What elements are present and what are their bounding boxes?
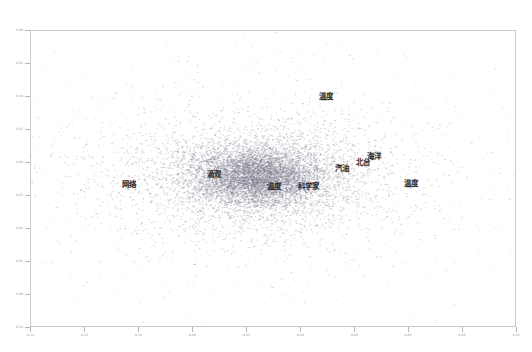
x-axis-tick-label: -0.08 <box>188 333 196 337</box>
x-axis-tick <box>192 327 193 332</box>
word-label: 汽油 <box>335 165 349 173</box>
x-axis-tick-label: -0.02 <box>350 333 358 337</box>
y-axis-tick-label: 0.02 <box>16 127 23 131</box>
x-axis-tick <box>246 327 247 332</box>
scatter-point-cloud <box>31 31 515 326</box>
y-axis-tick <box>25 162 30 163</box>
x-axis-tick-label: -0.04 <box>296 333 304 337</box>
y-axis-tick <box>25 129 30 130</box>
y-axis-tick-label: -0.02 <box>15 193 23 197</box>
y-axis-tick-label: -0.10 <box>15 325 23 329</box>
x-axis-tick-label: -0.14 <box>26 333 34 337</box>
x-axis-tick-label: -0.12 <box>80 333 88 337</box>
scatter-figure: -0.10-0.08-0.06-0.04-0.020.000.020.040.0… <box>0 0 532 352</box>
x-axis-tick <box>462 327 463 332</box>
word-label: 温度 <box>319 93 333 101</box>
plot-area <box>30 30 516 327</box>
y-axis-tick <box>25 228 30 229</box>
x-axis-tick <box>30 327 31 332</box>
word-label: 温度 <box>404 180 418 188</box>
x-axis-tick <box>354 327 355 332</box>
word-label: 科学家 <box>298 183 319 191</box>
y-axis-tick <box>25 96 30 97</box>
scatter-points <box>31 33 510 322</box>
y-axis-tick-label: 0.08 <box>16 28 23 32</box>
x-axis-tick <box>408 327 409 332</box>
y-axis-tick <box>25 294 30 295</box>
y-axis-tick-label: -0.08 <box>15 292 23 296</box>
word-label: 北台 <box>356 159 370 167</box>
x-axis-tick-label: -0.10 <box>134 333 142 337</box>
y-axis-tick <box>25 63 30 64</box>
y-axis-tick <box>25 30 30 31</box>
y-axis-tick-label: 0.04 <box>16 94 23 98</box>
word-label: 网络 <box>122 181 136 189</box>
y-axis-tick-label: 0.00 <box>16 160 23 164</box>
x-axis-tick-label: 0.04 <box>512 333 519 337</box>
x-axis-tick <box>300 327 301 332</box>
word-label: 滴观 <box>207 171 221 179</box>
x-axis-tick-label: 0.02 <box>458 333 465 337</box>
x-axis-tick-label: 0.00 <box>404 333 411 337</box>
x-axis-tick-label: -0.06 <box>242 333 250 337</box>
word-label: 温度 <box>267 183 281 191</box>
x-axis-tick <box>84 327 85 332</box>
y-axis-tick-label: -0.04 <box>15 226 23 230</box>
x-axis-tick <box>138 327 139 332</box>
y-axis-tick-label: 0.06 <box>16 61 23 65</box>
y-axis-tick <box>25 195 30 196</box>
y-axis-tick <box>25 261 30 262</box>
y-axis-tick-label: -0.06 <box>15 259 23 263</box>
x-axis-tick <box>516 327 517 332</box>
